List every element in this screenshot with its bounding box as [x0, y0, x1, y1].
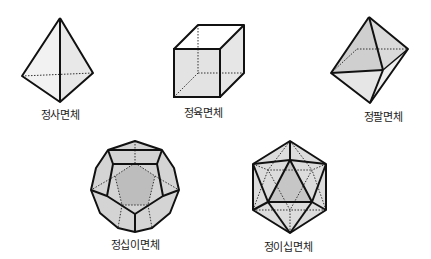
cube-shape	[174, 25, 244, 97]
octahedron-shape	[331, 17, 408, 103]
icosahedron-label: 정이십면체	[264, 238, 313, 254]
dodecahedron-shape	[91, 141, 179, 232]
tetrahedron-label: 정사면체	[41, 106, 80, 122]
polyhedra-figure	[0, 0, 431, 259]
dodecahedron-label: 정십이면체	[111, 236, 160, 252]
cube-label: 정육면체	[184, 104, 223, 120]
icosahedron-shape	[253, 141, 326, 233]
tetrahedron-shape	[22, 18, 93, 102]
octahedron-label: 정팔면체	[364, 108, 403, 124]
